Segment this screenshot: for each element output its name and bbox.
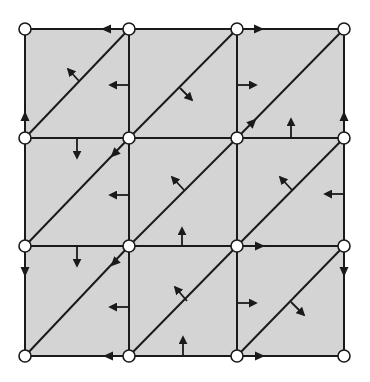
mesh-node <box>231 132 243 144</box>
mesh-node <box>19 350 31 362</box>
mesh-node <box>338 23 350 35</box>
mesh-node <box>231 240 243 252</box>
mesh-node <box>19 240 31 252</box>
mesh-node <box>123 350 135 362</box>
mesh-node <box>231 23 243 35</box>
mesh-node <box>338 132 350 144</box>
mesh-node <box>19 23 31 35</box>
mesh-node <box>338 240 350 252</box>
mesh-node <box>19 132 31 144</box>
mesh-node <box>231 350 243 362</box>
triangulated-mesh-diagram <box>0 0 370 382</box>
mesh-node <box>123 132 135 144</box>
mesh-node <box>338 350 350 362</box>
mesh-node <box>123 23 135 35</box>
mesh-node <box>123 240 135 252</box>
